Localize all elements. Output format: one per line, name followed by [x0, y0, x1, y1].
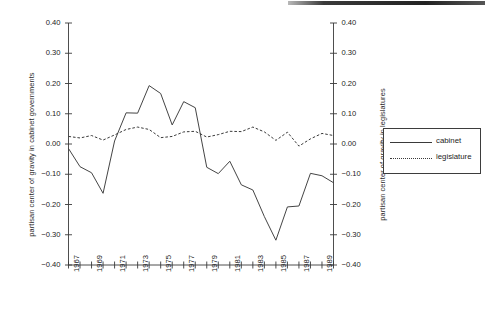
y-tick-label-left-3: 0.10 — [29, 109, 61, 118]
y-tick-label-right-6: −0.20 — [342, 200, 374, 209]
series-group — [69, 86, 334, 241]
y-tick-label-left-8: −0.40 — [29, 260, 61, 269]
y-tick-label-right-4: 0.00 — [342, 139, 374, 148]
x-tick-label-1977: 1977 — [187, 255, 196, 272]
y-tick-label-right-1: 0.30 — [342, 48, 374, 57]
y-tick-label-left-2: 0.20 — [29, 79, 61, 88]
y-tick-label-right-7: −0.30 — [342, 230, 374, 239]
x-tick-label-1985: 1985 — [279, 255, 288, 272]
x-tick-label-1971: 1971 — [118, 255, 127, 272]
x-tick-label-1979: 1979 — [210, 255, 219, 272]
x-tick-label-1981: 1981 — [233, 255, 242, 272]
legend-line-sample-dotted — [390, 158, 432, 159]
legend-entry-legislature: legislature — [384, 151, 480, 166]
x-tick-label-1987: 1987 — [302, 255, 311, 272]
y-tick-label-right-5: −0.10 — [342, 169, 374, 178]
line-chart-figure: partisan center of gravity in cabinet go… — [0, 0, 485, 310]
y-tick-label-left-0: 0.40 — [29, 18, 61, 27]
legend-line-sample-solid — [390, 142, 432, 143]
x-tick-label-1983: 1983 — [256, 255, 265, 272]
y-tick-label-left-7: −0.30 — [29, 230, 61, 239]
x-tick-label-1973: 1973 — [141, 255, 150, 272]
y-tick-label-left-4: 0.00 — [29, 139, 61, 148]
legend-label-cabinet: cabinet — [436, 136, 461, 145]
series-line-cabinet — [69, 86, 334, 241]
y-tick-label-right-0: 0.40 — [342, 18, 374, 27]
x-tick-label-1969: 1969 — [95, 255, 104, 272]
x-tick-label-1975: 1975 — [164, 255, 173, 272]
y-tick-label-right-3: 0.10 — [342, 109, 374, 118]
legend-label-legislature: legislature — [436, 152, 472, 161]
y-tick-label-right-8: −0.40 — [342, 260, 374, 269]
legend-entry-cabinet: cabinet — [384, 135, 480, 150]
x-tick-label-1989: 1989 — [325, 255, 334, 272]
y-tick-label-left-5: −0.10 — [29, 169, 61, 178]
x-tick-label-1967: 1967 — [72, 255, 81, 272]
axes-group — [65, 23, 337, 269]
y-tick-label-left-1: 0.30 — [29, 48, 61, 57]
y-tick-label-left-6: −0.20 — [29, 200, 61, 209]
y-tick-label-right-2: 0.20 — [342, 79, 374, 88]
chart-legend: cabinet legislature — [383, 128, 481, 174]
